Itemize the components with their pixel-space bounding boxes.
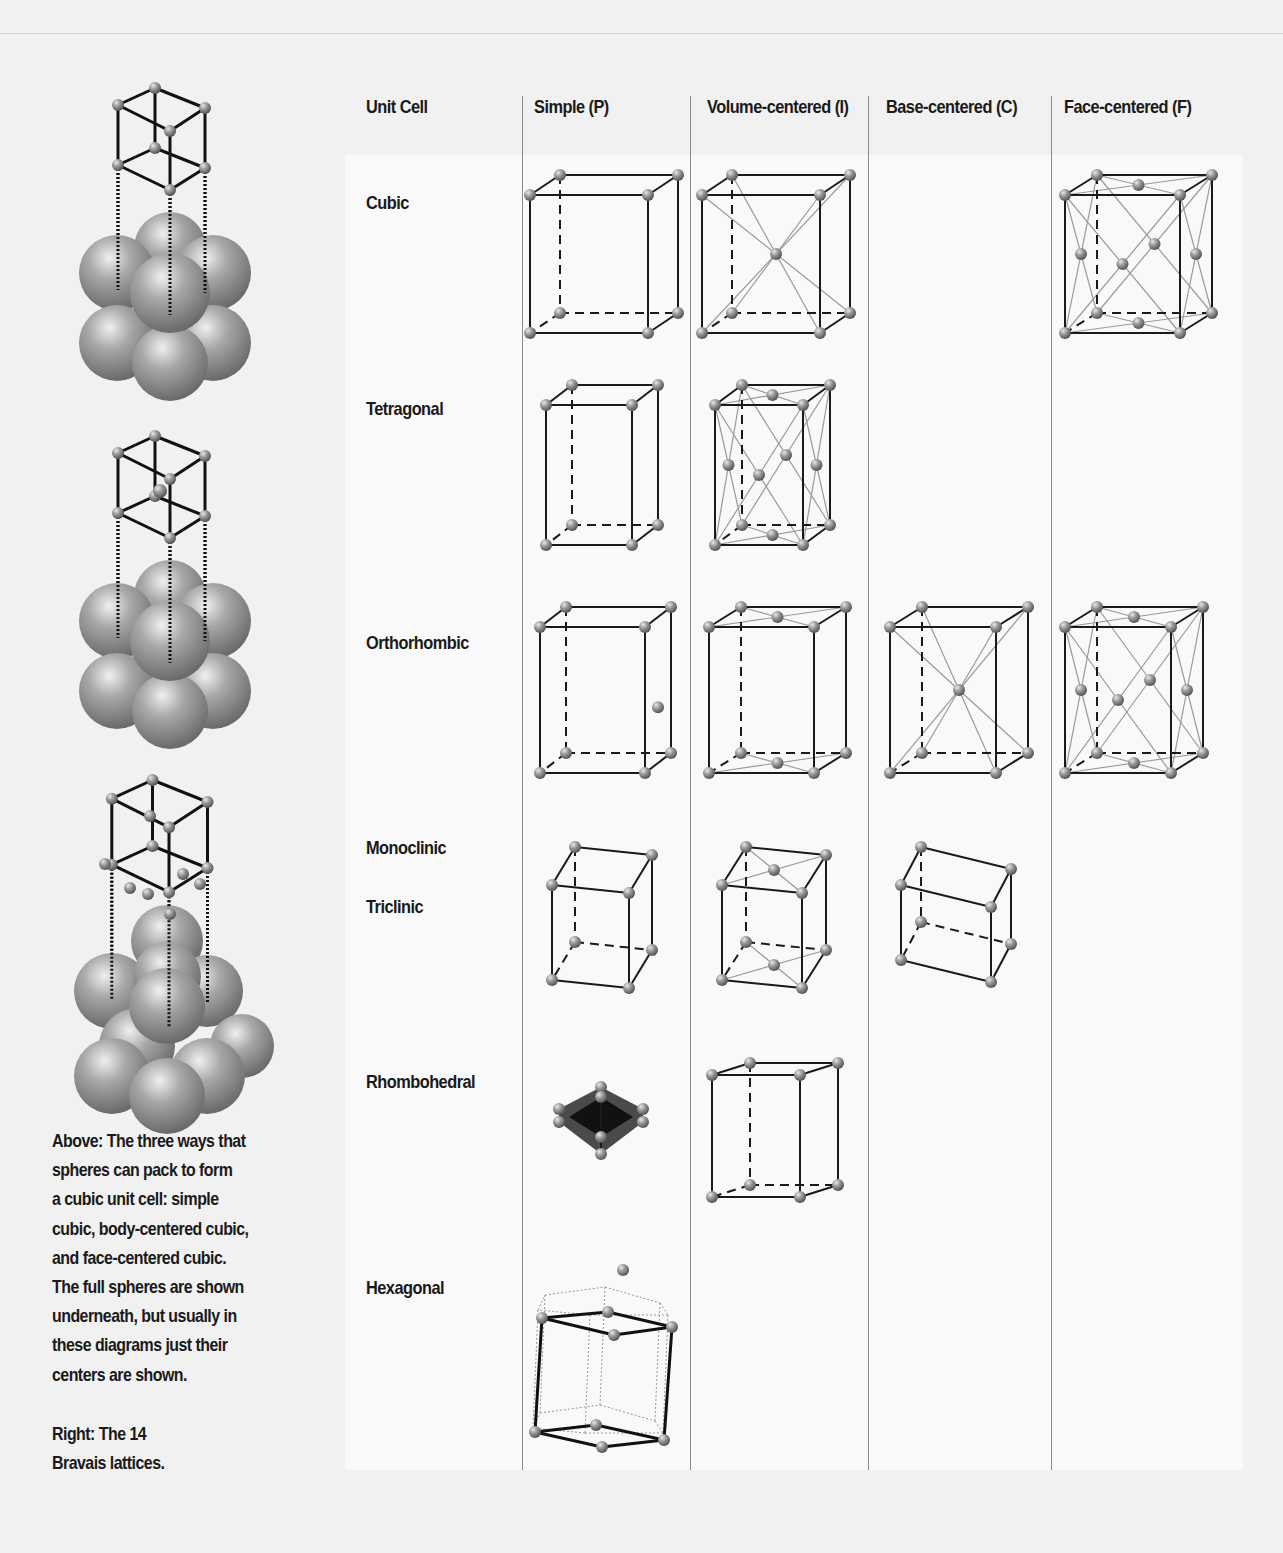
- caption-line: cubic, body-centered cubic,: [52, 1214, 301, 1243]
- caption-line: these diagrams just their: [52, 1330, 301, 1359]
- column-header: Base-centered (C): [886, 96, 1017, 118]
- column-divider: [1051, 96, 1052, 1470]
- caption-line: The full spheres are shown: [52, 1272, 301, 1301]
- caption-line: centers are shown.: [52, 1360, 301, 1389]
- row-label: Rhombohedral: [366, 1071, 475, 1093]
- column-divider: [522, 96, 523, 1470]
- column-divider: [868, 96, 869, 1470]
- column-header: Simple (P): [534, 96, 609, 118]
- row-label: Orthorhombic: [366, 632, 469, 654]
- lattice-hexagonal-simple: [0, 0, 1, 1]
- caption-line: Bravais lattices.: [52, 1448, 301, 1477]
- table-panel: [345, 155, 1243, 1470]
- column-header: Volume-centered (I): [707, 96, 849, 118]
- column-header: Face-centered (F): [1064, 96, 1191, 118]
- row-label: Tetragonal: [366, 398, 443, 420]
- row-label: Monoclinic: [366, 837, 446, 859]
- caption-line: and face-centered cubic.: [52, 1243, 301, 1272]
- caption-line: underneath, but usually in: [52, 1301, 301, 1330]
- column-divider: [690, 96, 691, 1470]
- caption-line: spheres can pack to form: [52, 1155, 301, 1184]
- row-label: Cubic: [366, 192, 409, 214]
- row-label: Triclinic: [366, 896, 423, 918]
- row-label: Hexagonal: [366, 1277, 444, 1299]
- caption-line: Right: The 14: [52, 1419, 301, 1448]
- caption-line: a cubic unit cell: simple: [52, 1184, 301, 1213]
- top-rule: [0, 33, 1283, 34]
- column-header: Unit Cell: [366, 96, 428, 118]
